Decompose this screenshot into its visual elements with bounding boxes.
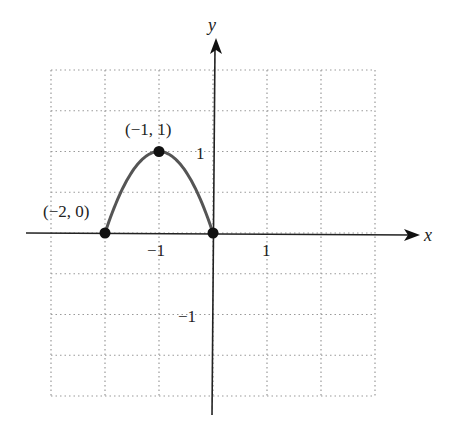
- point-label-neg1-1: (−1, 1): [125, 120, 171, 139]
- x-axis: x: [26, 225, 432, 245]
- point-marker: [208, 228, 219, 239]
- y-tick-1: 1: [196, 144, 205, 163]
- point-marker: [154, 146, 165, 157]
- point-marker: [100, 228, 111, 239]
- x-tick-neg1: −1: [147, 241, 165, 260]
- y-tick-neg1: −1: [178, 307, 196, 326]
- graph-plot: x y −1 1 1 −1 (−2, 0) (−1, 1): [0, 0, 458, 433]
- point-label-neg2-0: (−2, 0): [43, 202, 89, 221]
- x-axis-label: x: [423, 225, 432, 245]
- x-tick-1: 1: [262, 241, 271, 260]
- y-axis-label: y: [206, 15, 216, 35]
- y-axis-arrow-icon: [210, 38, 222, 54]
